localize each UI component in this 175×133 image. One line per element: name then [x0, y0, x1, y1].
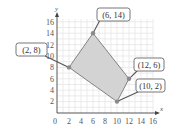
svg-text:14: 14	[46, 29, 54, 38]
svg-text:8: 8	[50, 63, 54, 72]
svg-text:2: 2	[67, 117, 71, 126]
svg-text:6: 6	[91, 117, 95, 126]
svg-text:2: 2	[50, 97, 54, 106]
svg-text:14: 14	[137, 117, 145, 126]
feasible-region-chart: x y 0 2 4 6 8 10 12 14 16 2 4 6 8 10 12 …	[0, 0, 175, 133]
svg-text:(2, 8): (2, 8)	[22, 45, 41, 55]
point-label-2-8: (2, 8)	[16, 43, 47, 56]
svg-text:(10, 2): (10, 2)	[139, 81, 162, 91]
vertex-6-14	[91, 31, 95, 35]
svg-text:16: 16	[149, 117, 157, 126]
point-label-12-6: (12, 6)	[134, 58, 164, 71]
svg-text:4: 4	[50, 86, 54, 95]
y-axis-label: y	[54, 5, 59, 13]
svg-text:8: 8	[103, 117, 107, 126]
svg-text:4: 4	[79, 117, 83, 126]
y-tick-labels: 2 4 6 8 10 12 14 16	[46, 18, 54, 107]
svg-text:16: 16	[46, 18, 54, 27]
svg-text:12: 12	[125, 117, 133, 126]
vertex-2-8	[67, 65, 71, 69]
svg-text:6: 6	[50, 75, 54, 84]
x-axis-label: x	[159, 105, 164, 113]
point-label-10-2: (10, 2)	[136, 79, 165, 92]
point-label-6-14: (6, 14)	[97, 8, 130, 21]
vertex-12-6	[127, 77, 131, 81]
vertex-10-2	[115, 99, 119, 103]
svg-text:0: 0	[53, 117, 57, 126]
svg-text:(12, 6): (12, 6)	[138, 60, 161, 70]
svg-text:(6, 14): (6, 14)	[102, 10, 125, 20]
svg-text:10: 10	[113, 117, 121, 126]
x-tick-labels: 0 2 4 6 8 10 12 14 16	[53, 117, 157, 126]
